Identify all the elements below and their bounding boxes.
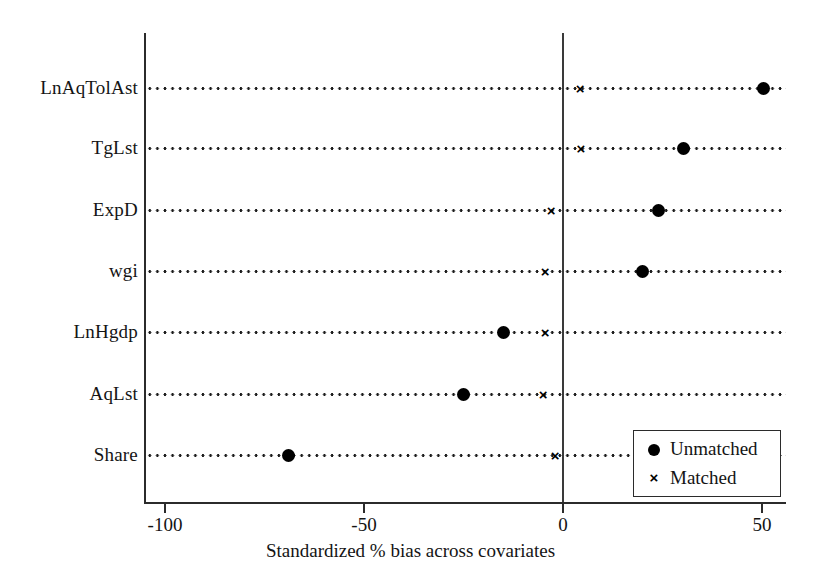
marker-unmatched [757, 82, 770, 95]
y-axis-category-label: Share [6, 445, 138, 464]
y-axis-category-share: Share [0, 445, 138, 465]
x-axis-tick [363, 504, 365, 513]
y-axis-category-label: wgi [6, 261, 138, 280]
marker-unmatched [497, 326, 510, 339]
x-axis-tick-label: 50 [722, 515, 802, 535]
x-axis-tick [562, 504, 564, 513]
row-guide-dots [146, 209, 786, 212]
bias-plot-figure: -100-50050Standardized % bias across cov… [0, 0, 821, 587]
x-axis-tick [164, 504, 166, 513]
legend-item-label: Unmatched [665, 436, 758, 462]
y-axis-category-label: AqLst [6, 384, 138, 403]
y-axis-category-label: LnHgdp [6, 322, 138, 341]
legend-item-matched: ×Matched [643, 465, 736, 491]
marker-unmatched [677, 142, 690, 155]
marker-unmatched [636, 265, 649, 278]
y-axis-category-label: ExpD [6, 200, 138, 219]
marker-unmatched [457, 388, 470, 401]
marker-matched: × [539, 265, 552, 278]
legend-item-unmatched: Unmatched [643, 436, 758, 462]
x-axis-tick-label: -50 [324, 515, 404, 535]
y-axis-category-label: LnAqTolAst [6, 78, 138, 97]
plot-area: -100-50050Standardized % bias across cov… [0, 0, 821, 587]
marker-matched: × [574, 142, 587, 155]
y-axis-category-tglst: TgLst [0, 138, 138, 158]
x-axis-title: Standardized % bias across covariates [0, 540, 821, 562]
legend-circle-icon [643, 436, 665, 462]
marker-matched: × [539, 326, 552, 339]
y-axis-category-aqlst: AqLst [0, 384, 138, 404]
row-guide-dots [146, 87, 786, 90]
x-axis-tick-label: -100 [125, 515, 205, 535]
marker-matched: × [545, 204, 558, 217]
marker-matched: × [574, 82, 587, 95]
marker-matched: × [537, 388, 550, 401]
marker-unmatched [652, 204, 665, 217]
y-axis-category-label: TgLst [6, 138, 138, 157]
zero-reference-line [562, 33, 564, 502]
row-guide-dots [146, 270, 786, 273]
y-axis-category-wgi: wgi [0, 261, 138, 281]
marker-unmatched [282, 449, 295, 462]
y-axis-category-expd: ExpD [0, 200, 138, 220]
legend-cross-icon: × [643, 465, 665, 491]
x-axis-tick [761, 504, 763, 513]
y-axis-category-lnhgdp: LnHgdp [0, 322, 138, 342]
row-guide-dots [146, 147, 786, 150]
x-axis-line [144, 502, 786, 504]
y-axis-line [144, 33, 146, 502]
marker-matched: × [549, 449, 562, 462]
x-axis-tick-label: 0 [523, 515, 603, 535]
y-axis-category-lnaqtolast: LnAqTolAst [0, 78, 138, 98]
legend-item-label: Matched [665, 465, 736, 491]
row-guide-dots [146, 331, 786, 334]
